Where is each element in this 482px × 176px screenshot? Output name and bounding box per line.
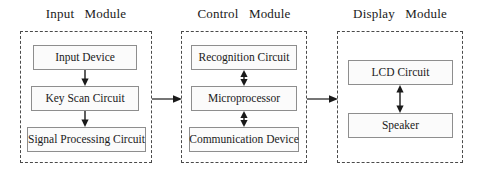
arrow-microprocessor-to-communication-device	[237, 111, 251, 127]
arrow-recognition-circuit-to-microprocessor	[237, 70, 251, 86]
block-microprocessor[interactable]: Microprocessor	[191, 86, 297, 111]
block-key-scan-circuit[interactable]: Key Scan Circuit	[31, 86, 139, 111]
block-communication-device[interactable]: Communication Device	[189, 127, 299, 152]
block-speaker[interactable]: Speaker	[348, 113, 453, 138]
block-signal-processing-circuit[interactable]: Signal Processing Circuit	[27, 127, 146, 152]
block-diagram: Input Module Input Device Key Scan Circu…	[0, 0, 482, 176]
module-title-display: Display Module	[337, 6, 463, 22]
arrow-lcd-circuit-to-speaker	[393, 85, 407, 113]
module-title-control: Control Module	[181, 6, 307, 22]
arrow-key-scan-circuit-to-signal-processing-circuit	[78, 111, 92, 127]
block-input-device[interactable]: Input Device	[33, 45, 137, 70]
block-recognition-circuit[interactable]: Recognition Circuit	[191, 45, 297, 70]
arrow-input-module-to-control-module	[152, 92, 182, 106]
arrow-control-module-to-display-module	[307, 92, 338, 106]
arrow-input-device-to-key-scan-circuit	[78, 70, 92, 86]
block-lcd-circuit[interactable]: LCD Circuit	[348, 60, 453, 85]
module-title-input: Input Module	[20, 6, 152, 22]
